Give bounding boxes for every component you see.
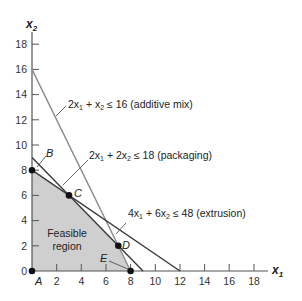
y-tick-18: 18 [15,38,27,50]
x-tick-12: 12 [174,275,186,287]
x-tick-14: 14 [199,275,211,287]
point-e [127,268,134,275]
y-tick-6: 6 [21,189,27,201]
point-c-label: C [74,187,82,199]
x-tick-10: 10 [149,275,161,287]
feasible-region [32,170,131,271]
point-b-label: B [46,147,53,159]
x-tick-18: 18 [248,275,260,287]
point-a [29,268,36,275]
extrusion-annotation: 4x1 + 6x2 ≤ 48 (extrusion) [128,207,246,220]
x-tick-8: 8 [128,275,134,287]
b-leader [37,156,46,167]
point-d [115,243,122,250]
x-tick-6: 6 [103,275,109,287]
lp-graph: 0 2 4 6 8 10 12 14 16 18 2 4 6 8 10 12 1… [0,0,302,301]
point-c [66,192,73,199]
y-tick-0: 0 [21,265,27,277]
point-d-label: D [122,239,130,251]
y-tick-8: 8 [21,164,27,176]
x-tick-16: 16 [223,275,235,287]
y-tick-4: 4 [21,214,27,226]
point-e-label: E [100,252,108,264]
y-tick-2: 2 [21,240,27,252]
x-tick-labels: 2 4 6 8 10 12 14 16 18 [54,275,260,287]
additive-mix-annotation: 2x1 + x2 ≤ 16 (additive mix) [68,98,193,111]
x-tick-2: 2 [54,275,60,287]
additive-leader [56,106,66,116]
y-tick-16: 16 [15,63,27,75]
x-axis-label: x1 [271,263,284,279]
y-tick-10: 10 [15,139,27,151]
packaging-leader [63,160,88,185]
x-tick-4: 4 [78,275,84,287]
point-b [29,167,36,174]
feasible-label-line1: Feasible [47,227,87,239]
y-tick-labels: 0 2 4 6 8 10 12 14 16 18 [15,38,27,277]
packaging-annotation: 2x1 + 2x2 ≤ 18 (packaging) [89,149,212,162]
feasible-label-line2: region [52,240,81,252]
y-tick-14: 14 [15,88,27,100]
y-tick-12: 12 [15,114,27,126]
point-a-label: A [34,275,42,287]
y-axis-label: x2 [25,17,38,33]
